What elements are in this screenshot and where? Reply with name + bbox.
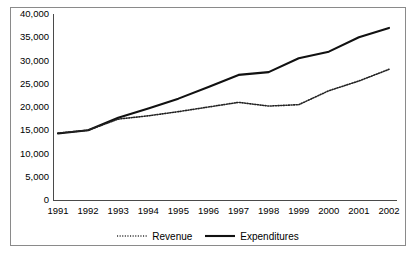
y-axis-tick-label: 10,000 bbox=[1, 149, 49, 159]
legend-item-expenditures: Expenditures bbox=[205, 231, 298, 242]
x-axis-tick-label: 1994 bbox=[138, 205, 159, 216]
series-lines bbox=[53, 14, 397, 201]
x-axis-tick-label: 1999 bbox=[288, 205, 309, 216]
chart-legend: Revenue Expenditures bbox=[10, 228, 406, 244]
legend-label-revenue: Revenue bbox=[152, 231, 192, 242]
x-axis-tick-label: 1997 bbox=[228, 205, 249, 216]
plot-area bbox=[53, 14, 397, 201]
x-axis-tick-label: 2000 bbox=[318, 205, 339, 216]
legend-item-revenue: Revenue bbox=[117, 231, 192, 242]
x-axis-tick-label: 1998 bbox=[258, 205, 279, 216]
legend-label-expenditures: Expenditures bbox=[240, 231, 298, 242]
x-axis-tick-label: 1993 bbox=[108, 205, 129, 216]
x-axis-tick-label: 1992 bbox=[78, 205, 99, 216]
y-axis-tick-label: 15,000 bbox=[1, 125, 49, 135]
x-axis-tick-label: 2002 bbox=[378, 205, 399, 216]
y-axis-tick-label: 25,000 bbox=[1, 79, 49, 89]
y-axis-tick-label: 5,000 bbox=[1, 172, 49, 182]
series-line-revenue bbox=[58, 69, 389, 133]
y-axis-tick-label: 0 bbox=[1, 195, 49, 205]
y-axis-tick-labels: 05,00010,00015,00020,00025,00030,00035,0… bbox=[0, 14, 49, 201]
y-axis-tick-label: 35,000 bbox=[1, 32, 49, 42]
x-axis-tick-label: 2001 bbox=[348, 205, 369, 216]
x-axis-tick-label: 1996 bbox=[198, 205, 219, 216]
x-axis-tick-label: 1995 bbox=[168, 205, 189, 216]
series-line-expenditures bbox=[58, 28, 389, 134]
y-axis-tick-label: 40,000 bbox=[1, 9, 49, 19]
legend-swatch-solid-icon bbox=[205, 232, 235, 240]
x-axis-tick-labels: 1991199219931994199519961997199819992000… bbox=[53, 205, 397, 219]
chart-figure: 05,00010,00015,00020,00025,00030,00035,0… bbox=[0, 0, 415, 253]
y-axis-tick-label: 30,000 bbox=[1, 56, 49, 66]
y-axis-tick-label: 20,000 bbox=[1, 102, 49, 112]
x-axis-tick-label: 1991 bbox=[47, 205, 68, 216]
legend-swatch-dotted-icon bbox=[117, 232, 147, 240]
